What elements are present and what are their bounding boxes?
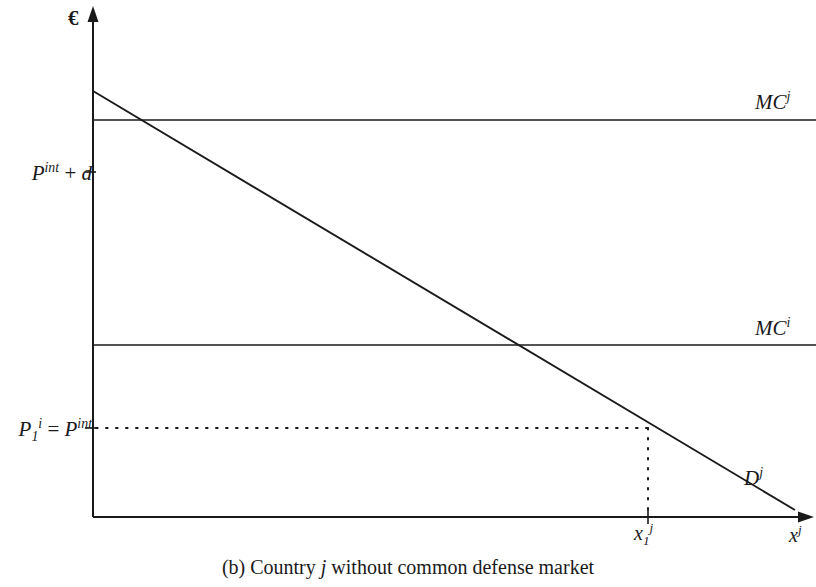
y-tick-label-p-int-plus-d: Pint + d xyxy=(32,161,92,184)
x-symbol: x xyxy=(789,524,798,546)
caption-prefix: (b) Country xyxy=(222,556,321,578)
mc-superscript-j: j xyxy=(787,89,791,104)
economics-diagram-canvas xyxy=(0,0,816,587)
demand-curve-line xyxy=(93,91,795,510)
y-axis-arrowhead xyxy=(88,6,99,22)
p-superscript-int: int xyxy=(77,416,92,431)
p-superscript-int: int xyxy=(45,160,60,175)
figure-panel: € Pint + d P1i = Pint x1j xj MCj MCi Dj … xyxy=(0,0,816,587)
equals-operator: = xyxy=(42,417,64,441)
y-axis-currency-label: € xyxy=(68,8,79,29)
p-symbol: P xyxy=(32,161,45,185)
demand-curve-label: Dj xyxy=(744,466,763,489)
mc-superscript-i: i xyxy=(787,315,791,330)
mc-i-curve-label: MCi xyxy=(755,316,790,339)
d-symbol: d xyxy=(82,161,93,185)
y-tick-label-p1-eq-p-int: P1i = Pint xyxy=(19,417,92,444)
p-symbol-second: P xyxy=(65,417,78,441)
plus-operator: + xyxy=(59,161,81,185)
d-superscript-j: j xyxy=(759,465,763,480)
x-axis xyxy=(93,512,814,523)
x-tick-label-x1-j: x1j xyxy=(634,521,653,547)
x-axis-arrowhead xyxy=(798,512,814,523)
x-superscript-j: j xyxy=(798,522,802,537)
mc-symbol: MC xyxy=(755,90,787,114)
mc-j-curve-label: MCj xyxy=(755,90,790,113)
x-symbol: x xyxy=(634,522,643,544)
p-subscript-1: 1 xyxy=(31,429,38,444)
d-symbol: D xyxy=(744,466,759,490)
p-symbol-first: P xyxy=(19,417,32,441)
mc-symbol: MC xyxy=(755,316,787,340)
x-axis-name-label: xj xyxy=(789,523,802,545)
caption-suffix: without common defense market xyxy=(326,556,594,578)
x-superscript-j: j xyxy=(649,520,653,535)
figure-caption: (b) Country j without common defense mar… xyxy=(0,556,816,579)
